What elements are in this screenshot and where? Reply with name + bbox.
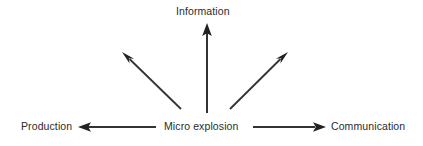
arrow-left-production bbox=[78, 122, 156, 131]
arrow-up-information bbox=[202, 23, 212, 113]
node-label-communication: Communication bbox=[331, 120, 405, 133]
arrow-diagonal-upper-right bbox=[230, 52, 288, 109]
radial-flow-diagram: Information Production Micro explosion C… bbox=[0, 0, 423, 146]
node-label-micro-explosion: Micro explosion bbox=[164, 120, 238, 133]
arrow-diagonal-upper-left-shaft bbox=[130, 59, 182, 109]
arrow-diagonal-upper-left bbox=[122, 52, 181, 109]
arrow-right-communication bbox=[253, 122, 326, 131]
node-label-information: Information bbox=[176, 5, 230, 18]
node-label-production: Production bbox=[21, 120, 72, 133]
arrow-diagonal-upper-right-shaft bbox=[230, 59, 281, 109]
